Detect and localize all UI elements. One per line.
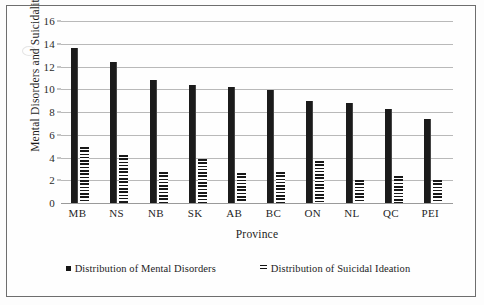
legend-item-label: Distribution of Suicidal Ideation	[271, 263, 411, 274]
bar-mental-disorders	[71, 48, 78, 203]
y-axis-tick-label: 4	[49, 152, 55, 163]
bar-mental-disorders	[189, 85, 196, 203]
bar-suicidal-ideation	[237, 173, 246, 203]
bar-mental-disorders	[267, 90, 274, 203]
x-axis-tick-labels: MBNSNBSKABBCONNLQCPEI	[61, 207, 453, 225]
bar-suicidal-ideation	[80, 147, 89, 203]
bar-group	[335, 21, 374, 203]
y-axis-tick-label: 10	[44, 84, 55, 95]
x-axis-tick-label: PEI	[422, 207, 439, 219]
y-axis-tick-label: 16	[44, 16, 55, 27]
bar-group	[100, 21, 139, 203]
bar-mental-disorders	[346, 103, 353, 203]
x-axis-tick-label: NL	[344, 207, 359, 219]
bar-suicidal-ideation	[315, 161, 324, 203]
bar-group	[218, 21, 257, 203]
y-axis-tick-label: 0	[49, 198, 55, 209]
bar-mental-disorders	[385, 109, 392, 203]
y-axis-tick-label: 12	[44, 61, 55, 72]
y-axis-tick-label: 8	[49, 107, 55, 118]
chart-legend: Distribution of Mental Disorders Distrib…	[20, 258, 456, 278]
bar-suicidal-ideation	[198, 159, 207, 203]
legend-item-suicidal-ideation: Distribution of Suicidal Ideation	[260, 263, 411, 274]
bar-suicidal-ideation	[276, 172, 285, 203]
bar-group	[296, 21, 335, 203]
y-axis-tick-label: 2	[49, 175, 55, 186]
x-axis-tick-label: ON	[304, 207, 321, 219]
bar-suicidal-ideation	[394, 176, 403, 203]
plot-area	[61, 21, 453, 203]
bar-mental-disorders	[228, 87, 235, 203]
x-axis-tick-label: QC	[383, 207, 399, 219]
x-axis-tick-label: SK	[188, 207, 203, 219]
y-axis-tick-label: 14	[44, 38, 55, 49]
y-axis-tick-mark	[57, 66, 61, 67]
legend-item-mental-disorders: Distribution of Mental Disorders	[66, 263, 216, 274]
x-axis-tick-label: AB	[226, 207, 242, 219]
bar-suicidal-ideation	[433, 180, 442, 203]
bar-mental-disorders	[110, 62, 117, 203]
y-axis-tick-mark	[57, 157, 61, 158]
y-axis-tick-mark	[57, 21, 61, 22]
bar-group	[414, 21, 453, 203]
bar-mental-disorders	[424, 119, 431, 203]
y-axis-tick-mark	[57, 112, 61, 113]
solid-square-marker-icon	[66, 266, 71, 271]
bar-suicidal-ideation	[355, 180, 364, 203]
y-axis-tick-label: 6	[49, 129, 55, 140]
x-axis-tick-label: BC	[266, 207, 281, 219]
y-axis-tick-mark	[57, 43, 61, 44]
x-axis-title: Province	[61, 228, 453, 240]
figure-container: Mental Disorders and Suicidality (%) 024…	[0, 0, 484, 305]
gridline	[61, 203, 453, 204]
bar-mental-disorders	[150, 80, 157, 203]
y-axis-tick-labels: 0246810121416	[33, 21, 55, 203]
bar-group	[61, 21, 100, 203]
legend-item-label: Distribution of Mental Disorders	[75, 263, 216, 274]
bar-suicidal-ideation	[119, 155, 128, 203]
bar-group	[375, 21, 414, 203]
striped-bar-marker-icon	[260, 265, 267, 271]
bar-group	[139, 21, 178, 203]
y-axis-tick-mark	[57, 89, 61, 90]
bar-mental-disorders	[306, 101, 313, 203]
x-axis-tick-label: MB	[69, 207, 87, 219]
bar-group	[257, 21, 296, 203]
x-axis-tick-label: NS	[109, 207, 124, 219]
y-axis-tick-mark	[57, 180, 61, 181]
x-axis-tick-label: NB	[148, 207, 164, 219]
bar-suicidal-ideation	[159, 172, 168, 203]
y-axis-tick-mark	[57, 134, 61, 135]
bar-group	[179, 21, 218, 203]
